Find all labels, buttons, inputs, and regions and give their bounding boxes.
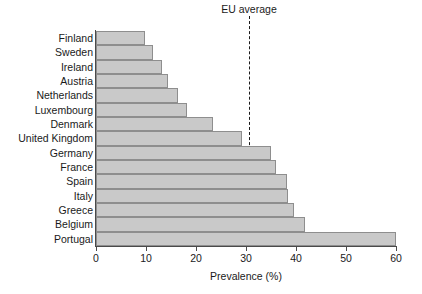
bar-row <box>96 74 396 88</box>
bar-netherlands <box>96 88 178 102</box>
bar-row <box>96 45 396 59</box>
y-axis-label: Greece <box>1 203 93 217</box>
y-axis-label: United Kingdom <box>1 131 93 145</box>
x-tick-label: 10 <box>140 252 152 264</box>
bar-italy <box>96 189 288 203</box>
x-tick-label: 20 <box>190 252 202 264</box>
y-axis-label: Sweden <box>1 45 93 59</box>
x-axis-title: Prevalence (%) <box>210 270 282 282</box>
bar-sweden <box>96 45 153 59</box>
y-axis-label: Netherlands <box>1 88 93 102</box>
bar-germany <box>96 146 271 160</box>
y-axis-label: Portugal <box>1 232 93 246</box>
x-tick-label: 50 <box>340 252 352 264</box>
bar-austria <box>96 74 168 88</box>
y-axis-label: Spain <box>1 174 93 188</box>
bar-greece <box>96 203 294 217</box>
bar-row <box>96 103 396 117</box>
bar-united-kingdom <box>96 131 242 145</box>
bar-luxembourg <box>96 103 187 117</box>
y-axis-label: Ireland <box>1 60 93 74</box>
bar-row <box>96 117 396 131</box>
x-tick <box>396 246 397 251</box>
x-tick-label: 40 <box>290 252 302 264</box>
bar-belgium <box>96 217 305 231</box>
bar-row <box>96 88 396 102</box>
bar-row <box>96 131 396 145</box>
x-tick <box>296 246 297 251</box>
plot-area <box>96 31 396 246</box>
bar-row <box>96 232 396 246</box>
x-tick-label: 60 <box>390 252 402 264</box>
bar-row <box>96 203 396 217</box>
eu-average-label: EU average <box>221 3 276 15</box>
x-tick <box>346 246 347 251</box>
bar-denmark <box>96 117 213 131</box>
y-axis-label: France <box>1 160 93 174</box>
bar-chart: EU average FinlandSwedenIrelandAustriaNe… <box>0 0 422 294</box>
bar-portugal <box>96 232 396 246</box>
y-axis-label: Germany <box>1 146 93 160</box>
bar-row <box>96 146 396 160</box>
bar-row <box>96 174 396 188</box>
x-tick-label: 30 <box>240 252 252 264</box>
y-axis-label: Austria <box>1 74 93 88</box>
bar-row <box>96 217 396 231</box>
y-axis-label: Belgium <box>1 217 93 231</box>
bar-row <box>96 60 396 74</box>
y-axis-label: Italy <box>1 189 93 203</box>
y-axis-label: Luxembourg <box>1 103 93 117</box>
bar-france <box>96 160 276 174</box>
x-tick <box>96 246 97 251</box>
y-axis-label: Denmark <box>1 117 93 131</box>
bar-spain <box>96 174 287 188</box>
x-tick-label: 0 <box>93 252 99 264</box>
bar-row <box>96 189 396 203</box>
bar-ireland <box>96 60 162 74</box>
bar-row <box>96 31 396 45</box>
bar-finland <box>96 31 145 45</box>
x-tick <box>146 246 147 251</box>
bar-row <box>96 160 396 174</box>
x-tick <box>196 246 197 251</box>
y-axis-label: Finland <box>1 31 93 45</box>
x-tick <box>246 246 247 251</box>
